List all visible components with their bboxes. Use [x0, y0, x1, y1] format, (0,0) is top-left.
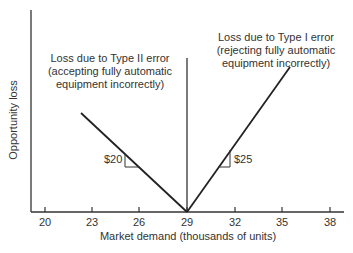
type2-annotation-line3: equipment incorrectly) [30, 78, 190, 91]
slope-label-left: $20 [104, 153, 122, 165]
slope-label-right: $25 [234, 153, 252, 165]
type2-loss-line [81, 113, 187, 212]
type1-loss-line [187, 67, 290, 212]
x-tick-label: 35 [276, 216, 288, 228]
type2-annotation: Loss due to Type II error (accepting ful… [30, 52, 190, 91]
x-tick-label: 26 [133, 216, 145, 228]
x-tick-label: 23 [86, 216, 98, 228]
type2-annotation-line1: Loss due to Type II error [30, 52, 190, 65]
x-tick-label: 32 [229, 216, 241, 228]
x-tick-label: 20 [39, 216, 51, 228]
x-axis-label: Market demand (thousands of units) [100, 230, 276, 242]
type1-annotation-line1: Loss due to Type I error [206, 31, 346, 44]
x-tick-label: 38 [324, 216, 336, 228]
type1-annotation: Loss due to Type I error (rejecting full… [206, 31, 346, 70]
y-axis-label: Opportunity loss [7, 80, 19, 159]
type1-annotation-line2: (rejecting fully automatic [206, 44, 346, 57]
x-tick-label: 29 [181, 216, 193, 228]
type1-annotation-line3: equipment incorrectly) [206, 57, 346, 70]
type2-annotation-line2: (accepting fully automatic [30, 65, 190, 78]
